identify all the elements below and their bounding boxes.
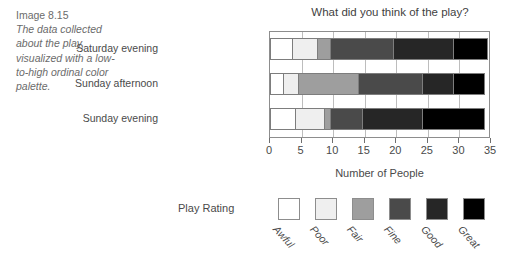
plot-area	[269, 31, 490, 138]
x-tick	[269, 138, 270, 143]
bar-segment-awful[interactable]	[270, 73, 283, 95]
x-tick-label: 25	[421, 144, 433, 156]
chart-legend: Play Rating AwfulPoorFairFineGoodGreat	[160, 196, 515, 266]
legend-label-awful: Awful	[271, 223, 297, 250]
legend-swatch-good[interactable]	[426, 198, 448, 220]
legend-swatch-fair[interactable]	[352, 198, 374, 220]
chart-container: What did you think of the play? Saturday…	[160, 0, 515, 268]
bar-segment-fine[interactable]	[358, 73, 421, 95]
bar-segment-good[interactable]	[393, 38, 453, 60]
category-label: Sunday evening	[8, 112, 158, 124]
x-tick-label: 5	[298, 144, 304, 156]
bar-segment-fine[interactable]	[330, 108, 362, 130]
bar-segment-poor[interactable]	[292, 38, 317, 60]
bar-segment-poor[interactable]	[283, 73, 299, 95]
legend-swatch-great[interactable]	[463, 198, 485, 220]
legend-swatch-fine[interactable]	[389, 198, 411, 220]
x-tick-label: 15	[358, 144, 370, 156]
legend-label-good: Good	[419, 223, 445, 250]
category-label: Saturday evening	[8, 42, 158, 54]
bar-segment-poor[interactable]	[295, 108, 323, 130]
x-tick	[458, 138, 459, 143]
category-label: Sunday afternoon	[8, 77, 158, 89]
chart-title: What did you think of the play?	[270, 6, 510, 18]
x-tick-label: 20	[389, 144, 401, 156]
bar-segment-fair[interactable]	[298, 73, 358, 95]
x-tick	[395, 138, 396, 143]
x-tick	[490, 138, 491, 143]
bar-segment-great[interactable]	[453, 73, 485, 95]
legend-swatch-awful[interactable]	[278, 198, 300, 220]
legend-label-poor: Poor	[308, 223, 332, 248]
bar-row	[270, 38, 489, 60]
x-tick	[364, 138, 365, 143]
legend-label-great: Great	[456, 223, 482, 251]
legend-swatch-poor[interactable]	[315, 198, 337, 220]
bar-segment-good[interactable]	[422, 73, 454, 95]
figure-caption-id: Image 8.15	[16, 8, 126, 22]
bar-segment-awful[interactable]	[270, 38, 292, 60]
bar-segment-great[interactable]	[453, 38, 488, 60]
x-tick	[301, 138, 302, 143]
x-tick-label: 30	[452, 144, 464, 156]
bar-segment-good[interactable]	[362, 108, 422, 130]
bar-row	[270, 73, 489, 95]
legend-label-fair: Fair	[345, 223, 366, 244]
bar-segment-great[interactable]	[422, 108, 485, 130]
bar-segment-fine[interactable]	[330, 38, 393, 60]
category-axis-labels: Saturday evening Sunday afternoon Sunday…	[8, 31, 158, 138]
bar-segment-awful[interactable]	[270, 108, 295, 130]
x-axis-ticks: 05101520253035	[269, 138, 490, 148]
bar-row	[270, 108, 489, 130]
x-tick-label: 10	[326, 144, 338, 156]
x-tick	[427, 138, 428, 143]
bar-segment-fair[interactable]	[317, 38, 330, 60]
legend-title: Play Rating	[178, 202, 234, 214]
x-axis-title: Number of People	[269, 167, 490, 179]
x-tick	[332, 138, 333, 143]
x-tick-label: 0	[266, 144, 272, 156]
legend-label-fine: Fine	[382, 223, 405, 246]
x-tick-label: 35	[484, 144, 496, 156]
